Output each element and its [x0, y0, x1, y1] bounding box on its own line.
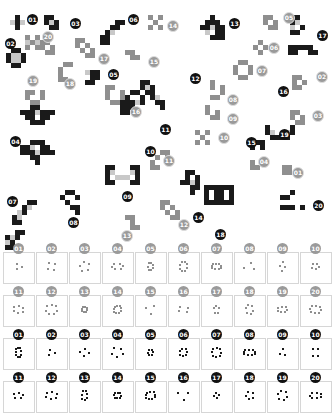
pattern-pixel — [155, 165, 160, 170]
thumbnail-label: 16 — [178, 286, 189, 297]
pattern-label: 03 — [70, 18, 81, 29]
pattern-pixel — [229, 200, 234, 205]
pattern-label: 11 — [160, 124, 171, 135]
thumbnail-pattern-icon — [202, 382, 232, 412]
thumbnail-pattern-icon — [268, 253, 298, 283]
thumbnail-label: 01 — [13, 329, 24, 340]
thumbnail[interactable]: 20 — [300, 286, 331, 326]
thumbnail-label: 17 — [211, 372, 222, 383]
thumbnail[interactable]: 17 — [201, 372, 232, 412]
pattern-label: 15 — [148, 56, 160, 68]
pattern-label: 07 — [256, 65, 268, 77]
thumbnail[interactable]: 15 — [135, 286, 166, 326]
thumbnail[interactable]: 10 — [300, 243, 331, 283]
thumbnail-label: 13 — [79, 286, 90, 297]
thumbnail[interactable]: 20 — [300, 372, 331, 412]
thumbnail[interactable]: 06 — [168, 243, 199, 283]
pattern-label: 14 — [167, 20, 179, 32]
thumbnail[interactable]: 05 — [135, 329, 166, 369]
thumbnail-pattern-icon — [235, 382, 265, 412]
thumbnail[interactable]: 02 — [36, 329, 67, 369]
thumbnail-pattern-icon — [202, 253, 232, 283]
thumbnail-label: 02 — [46, 243, 57, 254]
thumbnail-pattern-icon — [169, 339, 199, 369]
thumbnail[interactable]: 04 — [102, 329, 133, 369]
pattern-label: 11 — [163, 155, 175, 167]
pattern-pixel — [17, 220, 22, 225]
thumbnail[interactable]: 16 — [168, 286, 199, 326]
thumbnail[interactable]: 08 — [234, 329, 265, 369]
pattern-label: 16 — [278, 86, 289, 97]
thumbnail-pattern-icon — [202, 339, 232, 369]
thumbnail-pattern-icon — [268, 382, 298, 412]
pattern-pixel — [135, 55, 140, 60]
pattern-pixel — [285, 195, 290, 200]
thumbnail[interactable]: 01 — [3, 329, 34, 369]
thumbnail[interactable]: 04 — [102, 243, 133, 283]
pattern-pixel — [293, 50, 298, 55]
thumbnail-label: 03 — [79, 329, 90, 340]
pattern-pixel — [160, 105, 165, 110]
thumbnail-label: 20 — [310, 372, 321, 383]
thumbnail[interactable]: 06 — [168, 329, 199, 369]
thumbnail[interactable]: 15 — [135, 372, 166, 412]
thumbnail[interactable]: 18 — [234, 372, 265, 412]
thumbnail[interactable]: 02 — [36, 243, 67, 283]
thumbnail[interactable]: 12 — [36, 286, 67, 326]
thumbnail[interactable]: 19 — [267, 372, 298, 412]
thumbnail-label: 09 — [277, 243, 288, 254]
thumbnail[interactable]: 11 — [3, 286, 34, 326]
thumbnail-pattern-icon — [268, 339, 298, 369]
thumbnail[interactable]: 12 — [36, 372, 67, 412]
thumbnail[interactable]: 09 — [267, 329, 298, 369]
pattern-label: 19 — [27, 75, 39, 87]
thumbnail[interactable]: 03 — [69, 243, 100, 283]
thumbnail-pattern-icon — [70, 382, 100, 412]
thumbnail-label: 11 — [13, 372, 24, 383]
thumbnail-pattern-icon — [103, 296, 133, 326]
pattern-pixel — [25, 45, 30, 50]
thumbnail[interactable]: 11 — [3, 372, 34, 412]
thumbnail-pattern-icon — [268, 296, 298, 326]
pattern-pixel — [205, 130, 210, 135]
thumbnail[interactable]: 13 — [69, 372, 100, 412]
thumbnail[interactable]: 19 — [267, 286, 298, 326]
pattern-pixel — [15, 235, 20, 240]
pattern-pixel — [220, 90, 225, 95]
thumbnail[interactable]: 10 — [300, 329, 331, 369]
thumbnail-pattern-icon — [4, 253, 34, 283]
pattern-pixel — [110, 85, 115, 90]
thumbnail[interactable]: 17 — [201, 286, 232, 326]
pattern-label: 18 — [64, 78, 76, 90]
thumbnail-pattern-icon — [301, 382, 331, 412]
pattern-pixel — [300, 205, 305, 210]
thumbnail[interactable]: 18 — [234, 286, 265, 326]
thumbnail[interactable]: 14 — [102, 286, 133, 326]
thumbnail-pattern-icon — [169, 253, 199, 283]
thumbnail[interactable]: 03 — [69, 329, 100, 369]
thumbnail-label: 05 — [145, 329, 156, 340]
thumbnail-pattern-icon — [169, 382, 199, 412]
pattern-label: 01 — [292, 167, 304, 179]
thumbnail[interactable]: 09 — [267, 243, 298, 283]
pattern-label: 17 — [317, 30, 328, 41]
thumbnail-pattern-icon — [136, 253, 166, 283]
pattern-label: 20 — [313, 200, 324, 211]
thumbnail-pattern-icon — [136, 339, 166, 369]
pattern-label: 18 — [215, 229, 226, 240]
thumbnail[interactable]: 07 — [201, 329, 232, 369]
thumbnail-pattern-icon — [37, 339, 67, 369]
pattern-label: 06 — [128, 14, 139, 25]
thumbnail-pattern-icon — [4, 382, 34, 412]
thumbnail[interactable]: 13 — [69, 286, 100, 326]
thumbnail[interactable]: 05 — [135, 243, 166, 283]
thumbnail-pattern-icon — [103, 382, 133, 412]
thumbnail-label: 18 — [244, 372, 255, 383]
thumbnail-pattern-icon — [301, 339, 331, 369]
thumbnail[interactable]: 14 — [102, 372, 133, 412]
thumbnail[interactable]: 16 — [168, 372, 199, 412]
thumbnail[interactable]: 07 — [201, 243, 232, 283]
thumbnail[interactable]: 01 — [3, 243, 34, 283]
thumbnail[interactable]: 08 — [234, 243, 265, 283]
thumbnail-pattern-icon — [235, 253, 265, 283]
